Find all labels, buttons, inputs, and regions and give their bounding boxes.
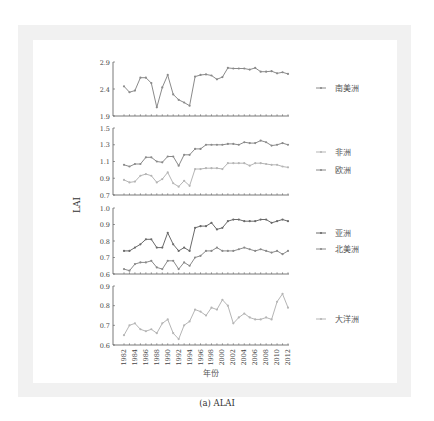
data-point — [287, 73, 289, 75]
data-point — [210, 144, 212, 146]
data-point — [145, 173, 147, 175]
data-point — [205, 167, 207, 169]
data-point — [172, 243, 174, 245]
data-point — [232, 67, 234, 69]
data-point — [238, 248, 240, 250]
data-point — [161, 268, 163, 270]
data-point — [128, 181, 130, 183]
data-point — [205, 144, 207, 146]
y-tick-label: 2.9 — [100, 59, 110, 67]
data-point — [150, 156, 152, 158]
data-point — [254, 162, 256, 164]
y-tick-label: 1.5 — [100, 125, 110, 133]
data-point — [281, 142, 283, 144]
data-point — [271, 70, 273, 72]
data-point — [156, 247, 158, 249]
data-point — [287, 250, 289, 252]
data-point — [183, 101, 185, 103]
data-point — [194, 148, 196, 150]
data-point — [238, 316, 240, 318]
data-point — [199, 255, 201, 257]
data-point — [199, 225, 201, 227]
data-point — [249, 165, 251, 167]
data-point — [199, 148, 201, 150]
data-point — [194, 168, 196, 170]
data-point — [243, 162, 245, 164]
data-point — [276, 250, 278, 252]
data-point — [145, 330, 147, 332]
data-point — [216, 144, 218, 146]
data-point — [156, 106, 158, 108]
data-point — [243, 67, 245, 69]
data-point — [134, 263, 136, 265]
data-point — [281, 165, 283, 167]
x-tick-label: 1986 — [142, 349, 150, 366]
data-point — [150, 238, 152, 240]
y-tick-label: 0.7 — [100, 192, 110, 200]
data-point — [178, 250, 180, 252]
legend-label: 北美洲 — [335, 244, 359, 254]
data-point — [167, 260, 169, 262]
data-point — [156, 160, 158, 162]
data-point — [183, 154, 185, 156]
data-point — [161, 247, 163, 249]
data-point — [254, 220, 256, 222]
data-point — [139, 77, 141, 79]
data-point — [139, 328, 141, 330]
data-point — [260, 318, 262, 320]
data-point — [265, 218, 267, 220]
data-point — [232, 218, 234, 220]
data-point — [205, 73, 207, 75]
data-point — [265, 163, 267, 165]
data-point — [249, 248, 251, 250]
data-point — [194, 227, 196, 229]
data-point — [134, 181, 136, 183]
data-point — [260, 218, 262, 220]
data-point — [281, 71, 283, 73]
data-point — [123, 164, 125, 166]
data-point — [172, 93, 174, 95]
data-point — [243, 141, 245, 143]
y-axis-label: LAI — [72, 197, 82, 213]
x-tick-label: 1982 — [120, 349, 128, 366]
data-point — [232, 250, 234, 252]
data-point — [161, 161, 163, 163]
data-point — [194, 75, 196, 77]
data-point — [178, 99, 180, 101]
x-tick-label: 2000 — [218, 349, 226, 366]
data-point — [210, 74, 212, 76]
data-point — [139, 163, 141, 165]
data-point — [189, 250, 191, 252]
x-tick-label: 1996 — [197, 349, 205, 366]
data-point — [150, 328, 152, 330]
data-point — [271, 318, 273, 320]
data-point — [156, 266, 158, 268]
data-point — [156, 181, 158, 183]
data-point — [161, 178, 163, 180]
data-point — [265, 141, 267, 143]
data-point — [265, 316, 267, 318]
x-axis-label: 年份 — [203, 368, 219, 378]
data-point — [210, 307, 212, 309]
data-point — [287, 166, 289, 168]
series-line — [124, 163, 288, 186]
data-point — [254, 142, 256, 144]
x-tick-label: 1998 — [207, 349, 215, 366]
x-tick-label: 2010 — [273, 349, 281, 366]
chart: 1.92.42.9南美洲0.70.91.11.31.5非洲欧洲0.60.70.8… — [0, 0, 434, 421]
data-point — [183, 180, 185, 182]
data-point — [189, 105, 191, 107]
data-point — [150, 260, 152, 262]
data-point — [243, 220, 245, 222]
legend-label: 亚洲 — [335, 229, 351, 238]
data-point — [150, 82, 152, 84]
data-point — [139, 243, 141, 245]
data-point — [216, 309, 218, 311]
data-point — [161, 86, 163, 88]
data-point — [183, 261, 185, 263]
data-point — [227, 162, 229, 164]
data-point — [249, 142, 251, 144]
data-point — [167, 74, 169, 76]
data-point — [265, 71, 267, 73]
data-point — [254, 250, 256, 252]
